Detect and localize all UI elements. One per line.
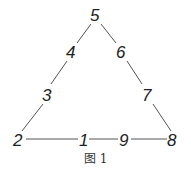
left-edge-4-3 [51,61,67,84]
figure-caption: 图 1 [84,152,107,166]
node-7: 7 [142,86,152,105]
node-6: 6 [116,43,126,62]
right-edge-7-8 [153,104,171,131]
node-3: 3 [42,86,52,105]
triangle-diagram: 5 4 6 3 7 2 1 9 8 图 1 [0,0,191,174]
right-edge-6-7 [127,61,142,84]
node-9: 9 [119,131,129,150]
node-1: 1 [79,131,88,150]
left-edge-3-2 [22,104,43,131]
right-edge-5-6 [101,24,116,43]
node-2: 2 [12,131,23,150]
node-4: 4 [66,43,75,62]
node-5: 5 [90,6,100,25]
node-8: 8 [167,131,177,150]
left-edge-5-4 [77,24,91,43]
